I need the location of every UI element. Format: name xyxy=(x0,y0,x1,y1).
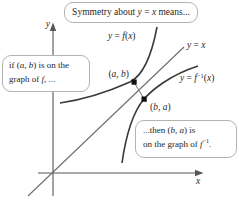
callout-if-ab-line2: graph of f, ... xyxy=(9,73,84,87)
identity-line-label: y = x xyxy=(187,40,206,50)
figure-inverse-symmetry-diagram: y x y = f(x) y = x y = f−1(x) (a, b) (b,… xyxy=(0,0,239,204)
y-axis-arrow-icon xyxy=(50,23,56,32)
point-ab-marker xyxy=(132,80,137,85)
callout-symmetry: Symmetry about y = x means... xyxy=(64,2,198,23)
callout-symmetry-text: Symmetry about y = x means... xyxy=(72,7,190,17)
f-inverse-curve-label: y = f−1(x) xyxy=(180,73,214,83)
point-ab-label: (a, b) xyxy=(98,69,129,79)
point-ba-label: (b, a) xyxy=(150,102,171,112)
y-axis-label: y xyxy=(40,19,50,29)
callout-if-ab-line1: if (a, b) is on the xyxy=(9,59,84,73)
x-axis-label: x xyxy=(196,176,200,186)
f-curve-label: y = f(x) xyxy=(108,31,136,41)
callout-then-ba: ...then (b, a) is on the graph of f−1. xyxy=(135,120,237,158)
callout-if-ab: if (a, b) is on the graph of f, ... xyxy=(2,55,90,92)
callout-then-ba-line1: ...then (b, a) is xyxy=(143,124,231,138)
callout-then-ba-line2: on the graph of f−1. xyxy=(143,138,231,152)
point-ba-marker xyxy=(142,97,147,102)
